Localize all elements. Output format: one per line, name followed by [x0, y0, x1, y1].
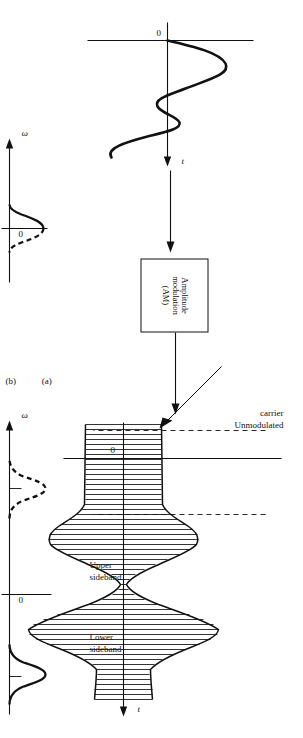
am-modulator-block[interactable]: Amplitude modulation (AM)	[140, 258, 208, 332]
carrier-region-dashed-markers	[93, 430, 265, 514]
caption-a: (a)	[41, 376, 51, 386]
unmodulated-carrier-annotation: Unmodulated carrier	[249, 300, 283, 420]
upper-sideband-line1: Upper	[89, 560, 112, 570]
am-spectrum-panel: 0 ω	[1, 418, 53, 718]
message-spectrum-solid-half	[9, 204, 43, 228]
am-spectrum-origin-label: 0	[18, 595, 23, 605]
am-modulation-figure: 0 t Amplitude modulation (AM)	[0, 0, 303, 738]
am-time-axis	[119, 422, 126, 716]
lower-sideband-line2: sideband	[89, 644, 121, 654]
message-spectrum-freq-label: ω	[21, 128, 27, 138]
am-spectrum-dashed-lobe	[9, 458, 45, 518]
am-block-line2: modulation	[169, 276, 178, 315]
am-block-line3: (AM)	[160, 285, 169, 304]
message-spectrum-panel: 0 ω	[1, 136, 51, 286]
message-origin-label: 0	[156, 28, 161, 38]
message-spectrum-dashed-half	[9, 228, 43, 252]
unmodulated-carrier-line1: Unmodulated	[234, 420, 283, 430]
message-signal-plot	[83, 18, 263, 168]
figure-page: 0 t Amplitude modulation (AM)	[0, 0, 303, 738]
am-time-axis-label: t	[137, 704, 140, 714]
lower-sideband-annotation: Lower sideband	[59, 632, 89, 712]
message-time-axis-label: t	[181, 156, 184, 166]
lower-sideband-line1: Lower	[89, 632, 113, 642]
am-spectrum-freq-label: ω	[21, 410, 27, 420]
am-spectrum-freq-axis	[5, 420, 12, 714]
upper-sideband-line2: sideband	[89, 572, 121, 582]
upper-envelope	[126, 424, 218, 699]
unmodulated-carrier-line2: carrier	[260, 408, 283, 418]
caption-b: (b)	[5, 376, 16, 386]
message-signal-panel: 0 t	[83, 18, 263, 168]
message-spectrum-plot	[1, 136, 51, 286]
message-spectrum-origin-label: 0	[18, 229, 23, 239]
am-origin-label: 0	[110, 445, 115, 455]
am-spectrum-plot	[1, 418, 53, 718]
arrow-block-to-am-waveform	[162, 332, 188, 418]
arrow-message-to-block	[157, 170, 183, 256]
upper-sideband-annotation: Upper sideband	[59, 560, 89, 640]
am-spectrum-solid-lobe	[9, 644, 45, 704]
